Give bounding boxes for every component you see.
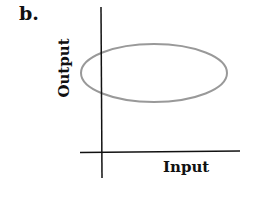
diagram-canvas: [0, 0, 266, 201]
x-axis: [80, 151, 240, 153]
ellipse-curve: [81, 44, 227, 102]
